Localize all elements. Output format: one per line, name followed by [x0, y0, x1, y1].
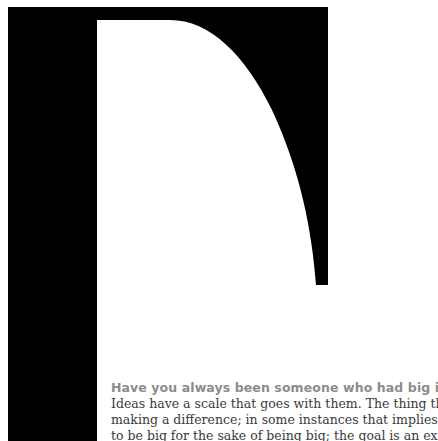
article-text: Have you always been someone who had big…: [111, 380, 438, 441]
answer-line-1: Ideas have a scale that goes with them. …: [111, 396, 438, 412]
interview-question: Have you always been someone who had big…: [111, 380, 438, 396]
answer-line-3: to be big for the sake of being big; the…: [111, 428, 438, 441]
dropcap-shape: [8, 7, 328, 441]
dropcap-letter-p: [0, 0, 438, 441]
answer-line-2: making a difference; in some instances t…: [111, 412, 438, 428]
